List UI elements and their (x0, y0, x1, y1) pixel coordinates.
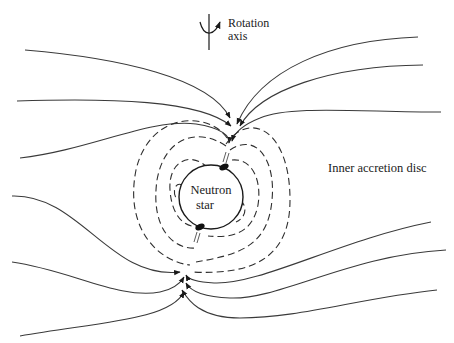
star-label-line1: Neutron (191, 183, 233, 197)
field-lines-upper-left (17, 50, 231, 158)
rotation-axis-label-line1: Rotation (228, 16, 269, 30)
field-lines-lower-left (12, 196, 184, 336)
field-lines-upper-right (232, 37, 441, 141)
neutron-star-accretion-diagram: Rotation axis (0, 0, 454, 343)
inner-accretion-disc-label: Inner accretion disc (328, 161, 427, 175)
neutron-star (179, 165, 243, 229)
rotation-axis-icon (200, 14, 220, 50)
star-label-line2: star (196, 198, 215, 212)
rotation-axis-label-line2: axis (228, 29, 248, 43)
